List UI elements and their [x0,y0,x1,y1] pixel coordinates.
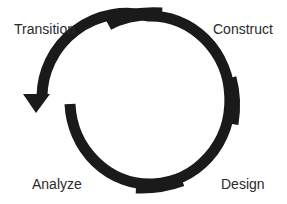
phase-label-design: Design [221,177,265,191]
arc-segment-top [108,14,162,24]
cycle-arrow-arc [42,13,230,184]
phase-label-transition: Transition [14,22,75,36]
arrowhead-icon [23,94,50,113]
phase-label-analyze: Analyze [32,177,82,191]
arc-segment-bottom [136,180,182,187]
arc-segment-right [230,78,234,124]
phase-label-construct: Construct [213,22,273,36]
